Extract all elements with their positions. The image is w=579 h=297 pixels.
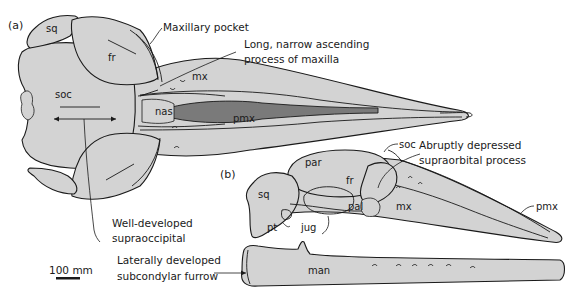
scale-bar: 100 mm [49,264,93,280]
annotation-maxillary-pocket: Maxillary pocket [163,21,249,33]
bone-label-pt: pt [267,222,277,233]
bone-label-par: par [305,157,322,168]
mandible: man Laterally developed subcondylar furr… [117,241,565,286]
squamosal-lower [28,168,77,194]
bone-label-pal: pal [348,201,363,212]
bone-label-jug: jug [300,222,316,233]
mandible-bone [242,241,565,286]
scale-bar-label: 100 mm [49,264,93,276]
annotation-subcondylar-line1: Laterally developed [117,254,221,266]
annotation-supraoccipital-line1: Well-developed [112,217,193,229]
bone-label-sq-lateral: sq [258,189,270,200]
panel-a-label: (a) [8,19,23,32]
annotation-supraoccipital-line2: supraoccipital [112,232,185,244]
bone-label-soc: soc [55,89,72,100]
annotation-ascending-process-line2: process of maxilla [244,53,339,65]
bone-label-fr: fr [108,52,117,63]
bone-label-mx-lateral: mx [396,201,412,212]
leader-pt [282,222,290,227]
annotation-supraorbital-line2: supraorbital process [419,154,526,166]
bone-label-pmx-lateral: pmx [536,201,558,212]
panel-b-lateral-skull: (b) soc par sq fr pal mx pmx pt jug Abru… [220,139,562,242]
skull-diagram: (a) sq fr soc mx nas pmx Maxillary pocke… [0,0,579,297]
annotation-ascending-process-line1: Long, narrow ascending [244,38,369,50]
leader-pmx-lateral [520,206,534,214]
bone-label-pmx: pmx [233,113,255,124]
bone-label-sq: sq [46,23,58,34]
occipital-condyle [21,91,34,120]
palatine [361,198,380,217]
leader-jug [322,216,329,234]
bone-label-soc-lateral: soc [399,139,416,150]
scale-bar-line [56,277,80,280]
bone-label-nas: nas [155,106,173,117]
panel-b-label: (b) [220,168,236,181]
bone-label-man: man [308,265,330,276]
bone-label-fr-lateral: fr [346,175,355,186]
annotation-subcondylar-line2: subcondylar furrow [117,270,219,282]
leader-maxillary-pocket [150,28,162,44]
annotation-supraorbital-line1: Abruptly depressed [419,139,521,151]
bone-label-mx: mx [192,71,208,82]
